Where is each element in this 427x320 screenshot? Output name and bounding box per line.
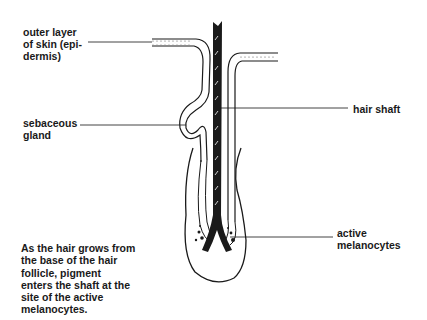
epidermis-texture-left [152,40,192,45]
epidermis-texture-right [240,54,276,60]
caption-line: the base of the hair [21,254,135,266]
follicle-right-wall [228,53,278,222]
label-sebaceous-gland: sebaceous gland [23,117,77,141]
label-line: active [337,227,401,239]
caption-line: enters the shaft at the [21,279,135,291]
label-line: dermis) [23,50,82,62]
caption: As the hair grows from the base of the h… [21,242,135,316]
label-active-melanocytes: active melanocytes [337,227,401,251]
caption-line: site of the active [21,291,135,303]
label-line: melanocytes [337,239,401,251]
caption-line: melanocytes. [21,303,135,315]
label-epidermis: outer layer of skin (epi- dermis) [23,26,82,62]
label-line: hair shaft [353,103,400,115]
label-line: outer layer [23,26,82,38]
caption-line: As the hair grows from [21,242,135,254]
label-hair-shaft: hair shaft [353,103,400,115]
label-line: sebaceous [23,117,77,129]
caption-line: follicle, pigment [21,267,135,279]
label-line: gland [23,129,77,141]
label-line: of skin (epi- [23,38,82,50]
follicle-left-wall [152,39,210,162]
